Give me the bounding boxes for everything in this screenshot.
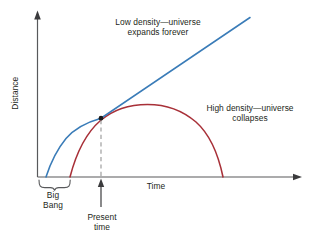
annotation-low-density: Low density—universe expands forever [96, 17, 220, 38]
low-density-curve [46, 18, 250, 178]
cosmology-expansion-diagram: Low density—universe expands forever Hig… [0, 0, 315, 252]
annotation-big-bang: Big Bang [30, 190, 76, 211]
annotation-present-time: Present time [78, 212, 126, 233]
present-time-arrowhead [98, 179, 104, 188]
x-axis-arrowhead [293, 174, 302, 181]
present-time-marker-dot [99, 116, 104, 121]
annotation-high-density: High density—universe collapses [188, 103, 312, 124]
big-bang-brace [39, 180, 70, 190]
y-axis-label: Distance [10, 62, 20, 124]
x-axis-label: Time [133, 181, 179, 191]
y-axis-arrowhead [34, 11, 41, 20]
